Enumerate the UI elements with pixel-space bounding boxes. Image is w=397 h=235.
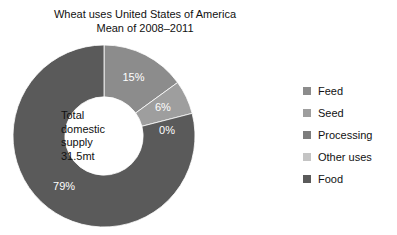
legend-swatch-icon [303,131,311,139]
slice-value-label-feed: 15% [122,71,144,83]
donut-chart: 15%6%0%79% [12,44,196,228]
legend-item-label: Other uses [318,151,372,163]
legend-item-seed[interactable]: Seed [303,102,395,124]
donut-svg: 15%6%0%79% [12,44,196,228]
legend-item-label: Food [318,173,343,185]
legend-item-processing[interactable]: Processing [303,124,395,146]
chart-title-line-2: Mean of 2008–2011 [0,21,290,35]
chart-title: Wheat uses United States of America Mean… [0,7,290,35]
legend-swatch-icon [303,175,311,183]
chart-figure: Wheat uses United States of America Mean… [0,0,397,235]
legend-swatch-icon [303,87,311,95]
legend-item-other-uses[interactable]: Other uses [303,146,395,168]
slice-value-label-seed: 6% [155,101,171,113]
legend-swatch-icon [303,109,311,117]
chart-title-line-1: Wheat uses United States of America [0,7,290,21]
donut-slices [13,45,195,227]
slice-value-label-processing: 0% [159,124,175,136]
legend-item-label: Seed [318,107,344,119]
legend-swatch-icon [303,153,311,161]
chart-legend: FeedSeedProcessingOther usesFood [303,80,395,190]
slice-value-label-food: 79% [53,180,75,192]
legend-item-label: Feed [318,85,343,97]
legend-item-food[interactable]: Food [303,168,395,190]
legend-item-feed[interactable]: Feed [303,80,395,102]
legend-item-label: Processing [318,129,372,141]
